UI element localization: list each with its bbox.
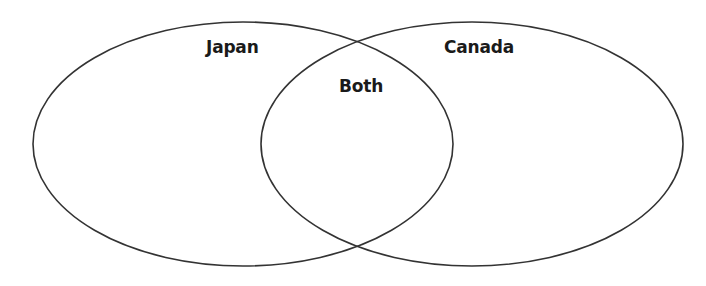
both-label: Both bbox=[339, 78, 383, 95]
venn-shapes bbox=[0, 0, 706, 286]
canada-ellipse bbox=[261, 22, 683, 266]
canada-label: Canada bbox=[444, 39, 514, 56]
venn-diagram: Japan Canada Both bbox=[0, 0, 706, 286]
japan-ellipse bbox=[33, 22, 453, 266]
japan-label: Japan bbox=[206, 39, 259, 56]
